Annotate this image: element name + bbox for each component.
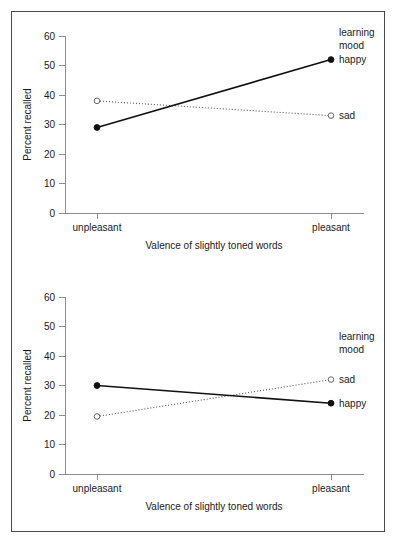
y-tick-label-20: 20 <box>44 410 56 421</box>
y-tick-label-40: 40 <box>44 351 56 362</box>
legend-label-happy: happy <box>339 398 366 409</box>
data-point-happy-unpleasant <box>94 125 100 131</box>
y-tick-label-0: 0 <box>49 208 55 219</box>
y-tick-label-50: 50 <box>44 60 56 71</box>
legend-label-sad: sad <box>339 374 355 385</box>
y-tick-label-30: 30 <box>44 380 56 391</box>
chart-panel-top: 0 10 20 30 40 50 60 unpleasant pleasant … <box>12 12 386 272</box>
x-tick-marks <box>97 213 331 219</box>
y-tick-marks <box>59 297 65 474</box>
y-tick-label-60: 60 <box>44 31 56 42</box>
chart-svg-top: 0 10 20 30 40 50 60 unpleasant pleasant … <box>12 12 386 272</box>
data-point-sad-unpleasant <box>94 98 100 104</box>
x-tick-label-unpleasant: unpleasant <box>73 483 122 494</box>
y-tick-marks <box>59 36 65 213</box>
y-tick-label-10: 10 <box>44 178 56 189</box>
y-tick-label-50: 50 <box>44 321 56 332</box>
x-axis-title: Valence of slightly toned words <box>145 501 282 512</box>
data-point-sad-pleasant <box>328 113 334 119</box>
y-axis-title: Percent recalled <box>22 88 33 160</box>
series-line-sad <box>97 380 331 417</box>
data-point-sad-pleasant <box>328 377 334 383</box>
legend-title-line1: learning <box>339 27 375 38</box>
legend-label-sad: sad <box>339 110 355 121</box>
chart-panel-bottom: 0 10 20 30 40 50 60 unpleasant pleasant … <box>12 273 386 533</box>
legend-title-line1: learning <box>339 331 375 342</box>
y-tick-label-0: 0 <box>49 469 55 480</box>
x-axis-title: Valence of slightly toned words <box>145 240 282 251</box>
y-axis-title: Percent recalled <box>22 349 33 421</box>
figure-frame: 0 10 20 30 40 50 60 unpleasant pleasant … <box>11 11 385 532</box>
x-tick-marks <box>97 474 331 480</box>
y-tick-label-60: 60 <box>44 292 56 303</box>
data-point-happy-pleasant <box>328 57 334 63</box>
data-point-happy-pleasant <box>328 400 334 406</box>
legend-title-line2: mood <box>339 344 364 355</box>
series-line-happy <box>97 386 331 404</box>
y-tick-label-30: 30 <box>44 119 56 130</box>
chart-svg-bottom: 0 10 20 30 40 50 60 unpleasant pleasant … <box>12 273 386 533</box>
y-tick-label-40: 40 <box>44 90 56 101</box>
x-tick-label-pleasant: pleasant <box>312 222 350 233</box>
legend-title-line2: mood <box>339 40 364 51</box>
x-tick-label-unpleasant: unpleasant <box>73 222 122 233</box>
data-point-sad-unpleasant <box>94 414 100 420</box>
legend-label-happy: happy <box>339 54 366 65</box>
y-tick-label-20: 20 <box>44 149 56 160</box>
data-point-happy-unpleasant <box>94 383 100 389</box>
y-tick-label-10: 10 <box>44 439 56 450</box>
series-line-sad <box>97 101 331 116</box>
x-tick-label-pleasant: pleasant <box>312 483 350 494</box>
series-line-happy <box>97 60 331 128</box>
